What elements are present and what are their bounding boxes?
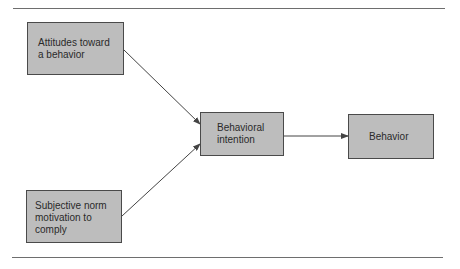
arrow-attitudes-to-intention	[124, 50, 200, 124]
node-attitudes-label: Attitudes toward a behavior	[38, 37, 110, 61]
arrow-norm-to-intention	[122, 144, 200, 216]
bottom-rule	[12, 257, 443, 258]
node-attitudes: Attitudes toward a behavior	[27, 22, 124, 75]
node-behavior-label: Behavior	[369, 131, 408, 143]
node-behavioral-intention: Behavioral intention	[200, 112, 284, 156]
node-subjective-norm-label: Subjective norm motivation to comply	[35, 200, 107, 236]
node-behavior: Behavior	[348, 114, 434, 159]
node-subjective-norm: Subjective norm motivation to comply	[26, 190, 122, 243]
node-behavioral-intention-label: Behavioral intention	[217, 122, 264, 146]
